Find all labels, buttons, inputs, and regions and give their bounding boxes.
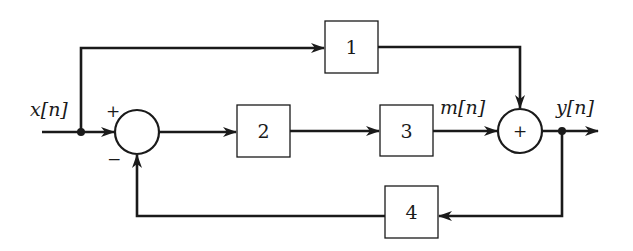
block-1-label: 1 (345, 36, 357, 58)
summer-1-plus-sign: + (106, 101, 120, 121)
block-2: 2 (237, 105, 290, 157)
summer-1 (115, 110, 159, 154)
input-signal-label: x[n] (30, 98, 68, 120)
block-diagram: 1 2 3 4 + − + x[n] m[n] y[n] (0, 0, 633, 251)
block-4-label: 4 (405, 201, 417, 223)
block-2-label: 2 (257, 120, 269, 142)
intermediate-signal-label: m[n] (440, 96, 486, 118)
feedback-line-to-summer-1 (137, 155, 385, 216)
block-4: 4 (385, 186, 438, 238)
block-1: 1 (325, 21, 378, 73)
feedback-line-to-block-4 (439, 131, 562, 216)
block-3: 3 (380, 105, 433, 156)
summer-2-plus-sign: + (513, 121, 527, 141)
summer-2: + (498, 109, 542, 153)
summer-1-minus-sign: − (107, 149, 121, 169)
output-signal-label: y[n] (555, 96, 594, 118)
block-3-label: 3 (400, 120, 412, 142)
